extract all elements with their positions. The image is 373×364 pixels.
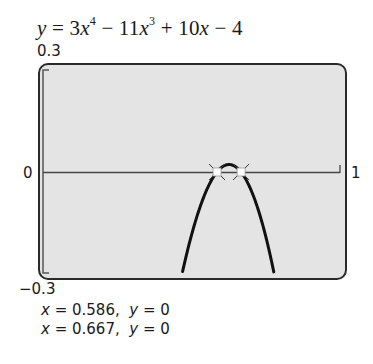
y-range-bracket: [43, 70, 49, 273]
result-row-1: x = 0.586, y = 0: [41, 301, 170, 320]
x-value: = 0.586,: [55, 301, 120, 319]
zero-marker: [213, 168, 221, 176]
y-value: = 0: [143, 301, 170, 319]
x-label: x: [41, 320, 50, 338]
x-value: = 0.667,: [55, 320, 120, 338]
y-value: = 0: [143, 320, 170, 338]
result-row-2: x = 0.667, y = 0: [41, 320, 170, 339]
zero-marker: [237, 168, 245, 176]
y-label: y: [129, 320, 138, 338]
results-panel: x = 0.586, y = 0 x = 0.667, y = 0: [41, 301, 170, 339]
y-label: y: [129, 301, 138, 319]
x-label: x: [41, 301, 50, 319]
function-curve: [183, 165, 274, 272]
